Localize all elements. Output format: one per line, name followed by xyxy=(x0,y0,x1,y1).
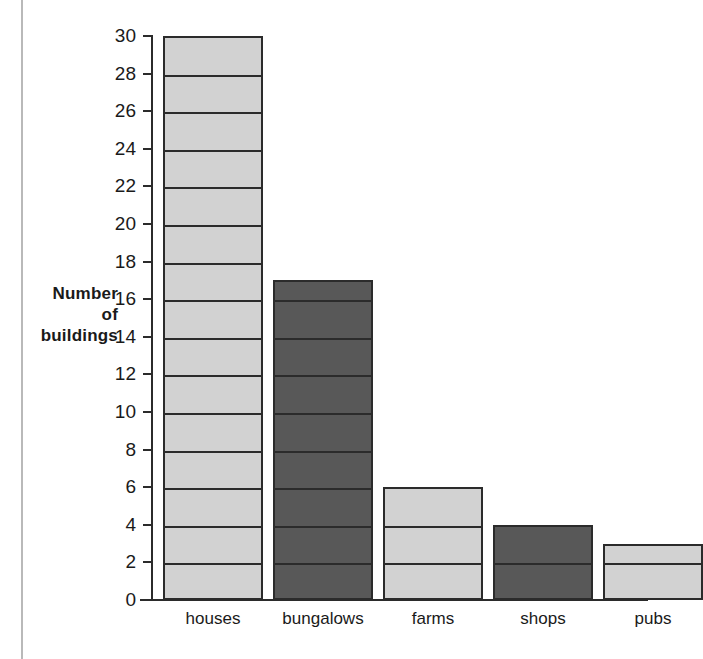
y-axis-tick-label: 2 xyxy=(100,552,136,571)
bar-internal-rule xyxy=(275,413,371,415)
y-axis-tick-label-text: 30 xyxy=(100,26,136,45)
y-axis-tick-label: 26 xyxy=(100,101,136,120)
y-axis-tick-label-text: 18 xyxy=(100,252,136,271)
bar-farms xyxy=(383,487,483,600)
y-axis-tick-mark xyxy=(143,411,152,413)
y-axis-tick-label-text: 8 xyxy=(100,440,136,459)
y-axis-tick-label-text: 26 xyxy=(100,101,136,120)
x-axis-label-houses: houses xyxy=(163,609,263,629)
y-axis-tick-label: 28 xyxy=(100,64,136,83)
x-axis-label-shops: shops xyxy=(493,609,593,629)
bar-internal-rule xyxy=(275,300,371,302)
y-axis-tick-label: 12 xyxy=(100,364,136,383)
y-axis-tick-label: 22 xyxy=(100,176,136,195)
y-axis-line xyxy=(151,35,153,601)
y-axis-tick-label-text: 28 xyxy=(100,64,136,83)
bar-internal-rule xyxy=(165,150,261,152)
bar-internal-rule xyxy=(165,451,261,453)
y-axis-tick-mark xyxy=(143,449,152,451)
y-axis-tick-label-text: 22 xyxy=(100,176,136,195)
bar-bungalows xyxy=(273,280,373,600)
y-axis-tick-label-text: 4 xyxy=(100,515,136,534)
y-axis-tick-mark xyxy=(143,185,152,187)
bar-internal-rule xyxy=(165,338,261,340)
x-axis-label-pubs: pubs xyxy=(603,609,703,629)
y-axis-tick-label: 8 xyxy=(100,440,136,459)
bar-internal-rule xyxy=(165,187,261,189)
y-axis-tick-label-text: 10 xyxy=(100,402,136,421)
x-axis-label-farms: farms xyxy=(383,609,483,629)
y-axis-tick-label: 16 xyxy=(100,289,136,308)
y-axis-tick-mark xyxy=(143,336,152,338)
y-axis-tick-label: 4 xyxy=(100,515,136,534)
y-axis-tick-mark xyxy=(143,599,152,601)
bar-internal-rule xyxy=(165,488,261,490)
bar-houses xyxy=(163,36,263,600)
y-axis-tick-mark xyxy=(143,73,152,75)
bar-internal-rule xyxy=(275,451,371,453)
bar-internal-rule xyxy=(385,563,481,565)
bar-pubs xyxy=(603,544,703,600)
y-axis-tick-mark xyxy=(143,298,152,300)
bar-internal-rule xyxy=(165,75,261,77)
bar-internal-rule xyxy=(165,263,261,265)
y-axis-tick-label-text: 12 xyxy=(100,364,136,383)
y-axis-tick-label: 20 xyxy=(100,214,136,233)
y-axis-tick-label-text: 2 xyxy=(100,552,136,571)
bar-internal-rule xyxy=(275,488,371,490)
y-axis-tick-mark xyxy=(143,148,152,150)
y-axis-tick-label-text: 14 xyxy=(100,327,136,346)
bar-internal-rule xyxy=(495,563,591,565)
y-axis-tick-label: 6 xyxy=(100,477,136,496)
y-axis-tick-label: 18 xyxy=(100,252,136,271)
x-axis-label-bungalows: bungalows xyxy=(273,609,373,629)
y-axis-tick-mark xyxy=(143,561,152,563)
y-axis-tick-mark xyxy=(143,35,152,37)
bar-internal-rule xyxy=(385,526,481,528)
bar-shops xyxy=(493,525,593,600)
y-axis-tick-mark xyxy=(143,524,152,526)
bar-internal-rule xyxy=(275,375,371,377)
bar-internal-rule xyxy=(275,338,371,340)
y-axis-tick-label-text: 0 xyxy=(100,590,136,609)
bar-internal-rule xyxy=(165,563,261,565)
bar-internal-rule xyxy=(165,413,261,415)
y-axis-tick-label: 0 xyxy=(100,590,136,609)
bar-internal-rule xyxy=(275,563,371,565)
y-axis-tick-label: 24 xyxy=(100,139,136,158)
y-axis-tick-mark xyxy=(143,223,152,225)
y-axis-tick-label: 10 xyxy=(100,402,136,421)
y-axis-tick-mark xyxy=(143,486,152,488)
bar-internal-rule xyxy=(275,526,371,528)
y-axis-tick-label: 30 xyxy=(100,26,136,45)
bar-internal-rule xyxy=(165,112,261,114)
y-axis-tick-mark xyxy=(143,373,152,375)
bar-internal-rule xyxy=(605,563,701,565)
y-axis-tick-label: 14 xyxy=(100,327,136,346)
bar-internal-rule xyxy=(165,526,261,528)
bar-internal-rule xyxy=(165,300,261,302)
y-axis-tick-label-text: 20 xyxy=(100,214,136,233)
bar-internal-rule xyxy=(165,375,261,377)
y-axis-tick-mark xyxy=(143,261,152,263)
y-axis-tick-label-text: 6 xyxy=(100,477,136,496)
y-axis-tick-label-text: 24 xyxy=(100,139,136,158)
y-axis-tick-mark xyxy=(143,110,152,112)
y-axis-tick-label-text: 16 xyxy=(100,289,136,308)
bar-internal-rule xyxy=(165,225,261,227)
